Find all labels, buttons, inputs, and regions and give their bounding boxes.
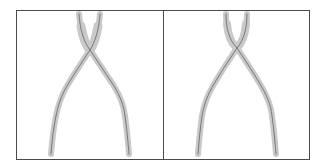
pliers-icon [198,14,276,154]
left-panel [51,14,129,154]
right-panel [198,14,276,154]
pliers-comparison-figure [0,0,327,167]
pliers-icon [51,14,129,154]
